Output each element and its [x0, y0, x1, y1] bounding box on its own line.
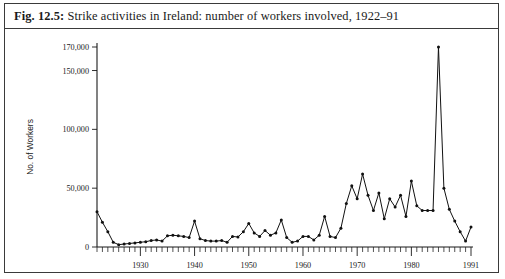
data-point — [329, 235, 332, 238]
data-point — [231, 235, 234, 238]
data-point — [258, 235, 261, 238]
data-point — [388, 197, 391, 200]
data-point — [280, 218, 283, 221]
y-axis-title: No. of Workers — [25, 119, 35, 175]
x-axis-tick-label: 1980 — [403, 261, 419, 270]
data-point — [339, 227, 342, 230]
data-point — [464, 240, 467, 243]
data-point — [133, 241, 136, 244]
line-chart: 050,000100,000150,000170,000 19301940195… — [5, 29, 498, 273]
data-point — [226, 241, 229, 244]
data-point — [96, 210, 99, 213]
data-point — [437, 46, 440, 49]
data-point — [285, 236, 288, 239]
data-point — [117, 243, 120, 246]
data-point — [394, 206, 397, 209]
data-point — [253, 231, 256, 234]
data-point — [323, 215, 326, 218]
y-axis-tick-label: 170,000 — [62, 43, 89, 52]
series-line — [97, 47, 471, 245]
x-axis: 1930194019501960197019801991 — [97, 247, 479, 270]
data-point — [383, 217, 386, 220]
x-axis-tick-label: 1960 — [295, 261, 311, 270]
data-point — [421, 209, 424, 212]
data-point — [301, 235, 304, 238]
data-point — [220, 239, 223, 242]
x-axis-tick-label: 1950 — [241, 261, 257, 270]
data-point — [404, 215, 407, 218]
y-axis-tick-label: 50,000 — [66, 184, 89, 193]
data-point — [291, 241, 294, 244]
data-point — [188, 236, 191, 239]
data-point — [198, 237, 201, 240]
data-point — [264, 229, 267, 232]
data-point — [459, 230, 462, 233]
x-axis-tick-label: 1930 — [132, 261, 148, 270]
data-point — [399, 194, 402, 197]
data-point — [247, 222, 250, 225]
data-point — [415, 204, 418, 207]
data-point — [112, 241, 115, 244]
data-point — [350, 184, 353, 187]
data-point — [307, 235, 310, 238]
data-point — [166, 234, 169, 237]
data-point — [470, 226, 473, 229]
figure-caption-bar: Fig. 12.5: Strike activities in Ireland:… — [5, 4, 498, 29]
y-axis: 050,000100,000150,000170,000 — [62, 43, 97, 252]
data-series-group — [96, 46, 473, 247]
x-axis-tick-label: 1970 — [349, 261, 365, 270]
data-point — [377, 191, 380, 194]
data-point — [318, 234, 321, 237]
x-axis-tick-label: 1940 — [186, 261, 202, 270]
x-axis-tick-label: 1991 — [463, 261, 479, 270]
data-point — [106, 230, 109, 233]
data-point — [150, 239, 153, 242]
data-point — [161, 240, 164, 243]
data-point — [410, 180, 413, 183]
data-point — [215, 240, 218, 243]
data-point — [448, 208, 451, 211]
figure-caption: Fig. 12.5: Strike activities in Ireland:… — [5, 9, 399, 24]
data-point — [274, 231, 277, 234]
data-point — [209, 240, 212, 243]
data-point — [453, 220, 456, 223]
data-point — [356, 197, 359, 200]
data-point — [193, 220, 196, 223]
data-point — [204, 239, 207, 242]
data-point — [177, 234, 180, 237]
data-point — [372, 209, 375, 212]
data-point — [236, 236, 239, 239]
data-point — [432, 209, 435, 212]
data-point — [345, 202, 348, 205]
data-point — [242, 230, 245, 233]
data-point — [139, 241, 142, 244]
data-point — [101, 221, 104, 224]
y-axis-tick-label: 0 — [85, 243, 89, 252]
data-point — [367, 194, 370, 197]
y-axis-tick-label: 100,000 — [62, 125, 89, 134]
data-point — [334, 236, 337, 239]
data-point — [426, 209, 429, 212]
data-point — [296, 240, 299, 243]
data-point — [144, 240, 147, 243]
data-point — [123, 243, 126, 246]
figure-container: Fig. 12.5: Strike activities in Ireland:… — [4, 3, 499, 273]
data-point — [312, 238, 315, 241]
data-point — [155, 238, 158, 241]
data-point — [442, 187, 445, 190]
chart-plot-area: 050,000100,000150,000170,000 19301940195… — [5, 29, 498, 273]
y-axis-tick-label: 150,000 — [62, 67, 89, 76]
data-point — [128, 242, 131, 245]
data-point — [269, 234, 272, 237]
data-point — [182, 235, 185, 238]
figure-caption-text: Strike activities in Ireland: number of … — [67, 9, 399, 23]
figure-number: Fig. 12.5: — [14, 9, 64, 23]
data-point — [361, 173, 364, 176]
data-point — [171, 234, 174, 237]
